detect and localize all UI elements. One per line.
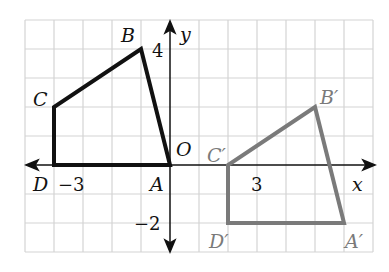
vertex-label-D: D [32,173,48,195]
vertex-label-B: B [120,24,135,46]
x-axis-label: x [352,173,363,195]
vertex-label-B-prime: B′ [319,86,339,108]
tick-label-y-neg2: −2 [134,213,161,234]
vertex-label-A: A [148,173,164,195]
vertex-label-D-prime: D′ [208,230,229,252]
tick-label-x-neg3: −3 [58,174,85,195]
vertex-label-C-prime: C′ [207,144,227,166]
origin-label: O [176,138,192,160]
coordinate-plane-figure: y x O 4 −2 −3 3 A B C D A′ B′ C′ D′ [0,0,389,272]
tick-label-y-4: 4 [152,40,163,61]
vertex-label-C: C [33,88,48,110]
tick-label-x-3: 3 [251,174,262,195]
y-axis-label: y [179,23,191,45]
vertex-label-A-prime: A′ [343,230,364,252]
